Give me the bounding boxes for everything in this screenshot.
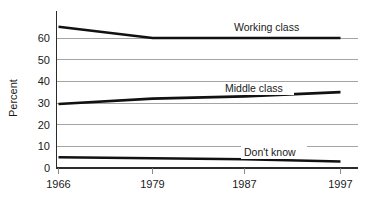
y-tick-label-10: 10 [38,140,50,152]
x-tick-label-1979: 1979 [140,178,164,190]
y-tick-label-30: 30 [38,97,50,109]
y-tick-label-0: 0 [44,162,50,174]
y-axis-title: Percent [7,79,19,117]
series-label-middle-class-group: Middle class [222,82,294,95]
series-label-dont-know-group: Don't know [241,146,307,159]
series-label-middle-class: Middle class [225,82,283,94]
y-tick-labels: 60 50 40 30 20 10 0 [38,32,50,174]
x-tick-marks [59,168,341,174]
x-tick-labels: 1966 1979 1987 1997 [46,178,352,190]
line-chart: 60 50 40 30 20 10 0 Percent 1966 1979 19… [0,0,370,206]
x-tick-label-1997: 1997 [328,178,352,190]
series-line-middle-class [59,92,341,104]
x-tick-label-1987: 1987 [232,178,256,190]
axes [56,11,358,168]
series-label-dont-know: Don't know [244,146,296,158]
y-tick-label-40: 40 [38,75,50,87]
x-tick-label-1966: 1966 [46,178,70,190]
y-tick-label-50: 50 [38,54,50,66]
y-tick-label-60: 60 [38,32,50,44]
series-label-working-class: Working class [234,21,299,33]
chart-canvas: 60 50 40 30 20 10 0 Percent 1966 1979 19… [0,0,370,206]
y-tick-label-20: 20 [38,119,50,131]
series-label-working-class-group: Working class [231,21,309,34]
